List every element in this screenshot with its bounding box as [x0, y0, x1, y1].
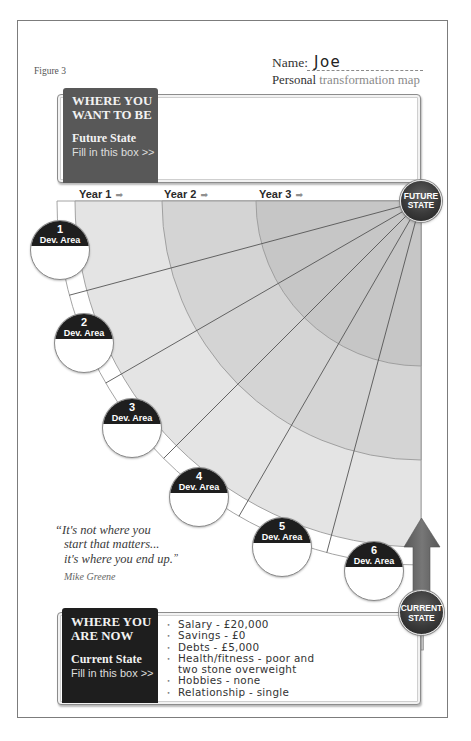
quote-line-3: it's where you end up.” [62, 551, 178, 567]
dev-area-label: Dev. Area [55, 328, 113, 338]
dev-area-label: Dev. Area [345, 556, 403, 566]
current-state-label-panel: WHERE YOU ARE NOW Current State Fill in … [62, 608, 158, 703]
list-item-savings: •Savings - £0 [164, 630, 314, 641]
list-item-text: Debts - £5,000 [178, 641, 259, 653]
quote-line-2: start that matters... [62, 538, 178, 552]
bullet-icon: • [164, 619, 173, 630]
list-item-text: Savings - £0 [178, 629, 246, 641]
list-item-text: two stone overweight [178, 663, 297, 675]
dev-area-4: 4 Dev. Area [169, 467, 229, 527]
list-item-text: Hobbies - none [178, 674, 261, 686]
list-item-text: Relationship - single [178, 686, 289, 698]
dev-area-5: 5 Dev. Area [252, 517, 312, 577]
current-title-line1: WHERE YOU [71, 615, 158, 629]
bullet-icon: • [164, 687, 173, 698]
current-state-list: •Salary - £20,000 •Savings - £0 •Debts -… [164, 619, 314, 698]
quote: “ It's not where you start that matters.… [55, 524, 178, 567]
list-item-relationship: •Relationship - single [164, 687, 314, 698]
dev-area-6: 6 Dev. Area [344, 541, 404, 601]
future-state-marker: FUTURE STATE [400, 180, 442, 222]
list-item-text: Salary - £20,000 [178, 618, 269, 630]
dev-area-label: Dev. Area [253, 532, 311, 542]
bullet-icon: • [164, 675, 173, 686]
quote-line-3-text: it's where you end up. [64, 552, 173, 566]
bullet-icon: • [164, 653, 173, 664]
list-item-text: Health/fitness - poor and [178, 652, 314, 664]
quote-author: Mike Greene [64, 571, 116, 582]
bullet-icon: • [164, 642, 173, 653]
dev-area-label: Dev. Area [170, 482, 228, 492]
future-state-line2: STATE [408, 201, 435, 211]
quote-line-1: It's not where you [62, 524, 178, 538]
current-state-line2: STATE [408, 614, 435, 624]
dev-area-label: Dev. Area [103, 413, 161, 423]
quote-open-mark: “ [55, 524, 62, 538]
current-state-marker: CURRENT STATE [399, 590, 444, 635]
dev-area-2: 2 Dev. Area [54, 313, 114, 373]
dev-area-label: Dev. Area [31, 235, 89, 245]
dev-area-1: 1 Dev. Area [30, 220, 90, 280]
current-instruction: Fill in this box >> [71, 666, 158, 680]
quote-close-mark: ” [173, 552, 179, 563]
current-title-line2: ARE NOW [71, 629, 158, 643]
bullet-icon: • [164, 630, 173, 641]
dev-area-3: 3 Dev. Area [102, 398, 162, 458]
current-state-label: Current State [71, 652, 158, 666]
